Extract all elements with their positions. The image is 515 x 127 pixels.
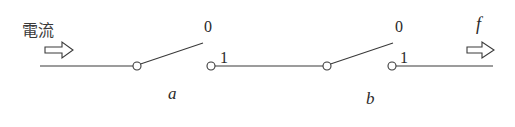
switch-a-label-0: 0	[204, 18, 212, 35]
switch-b-contact-1	[388, 62, 396, 70]
switch-b: 0 1 b	[323, 18, 408, 108]
switch-a-name: a	[168, 84, 177, 103]
input-current-label: 電流	[22, 21, 54, 40]
switch-b-label-1: 1	[400, 49, 408, 66]
switch-a-contact-1	[207, 62, 215, 70]
switch-b-label-0: 0	[395, 18, 403, 35]
switch-a-lever	[141, 43, 204, 64]
switch-a-label-1: 1	[220, 49, 228, 66]
switch-a: 0 1 a	[133, 18, 228, 103]
switch-circuit-diagram: 電流 0 1 a 0 1 b f	[0, 0, 515, 127]
switch-b-name: b	[366, 89, 375, 108]
switch-a-pivot	[133, 62, 141, 70]
output-f-label: f	[476, 14, 484, 34]
output-arrow-icon	[467, 42, 494, 58]
switch-b-pivot	[323, 62, 331, 70]
switch-b-lever	[331, 43, 394, 64]
input-arrow-icon	[45, 42, 73, 58]
